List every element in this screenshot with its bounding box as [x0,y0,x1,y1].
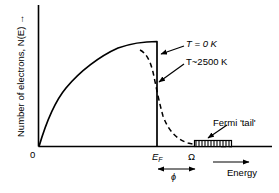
annotation-t-2500: T~2500 K [186,57,227,67]
y-axis-label: Number of electrons, N(E) → [16,6,26,146]
y-axis-label-arrow: → [15,15,26,25]
figure-canvas [0,0,279,193]
annotation-fermi-tail: Fermi 'tail' [213,118,256,128]
fermi-tail-hatch [195,141,232,147]
annotation-t-zero: T = 0 K [186,39,217,49]
fermi-energy-subscript: F [158,156,162,163]
leader-arrow-t-zero [161,46,184,54]
leader-arrow-t-2500 [159,64,184,82]
origin-label: 0 [30,150,35,160]
work-function-label: ϕ [171,173,176,182]
x-axis-label: Energy [227,168,257,178]
y-axis-label-text: Number of electrons, N(E) [15,27,26,137]
fermi-energy-label: EF [152,152,163,163]
curve-t-zero [39,42,157,147]
energy-distribution-figure: Number of electrons, N(E) → 0 T = 0 K T~… [0,0,279,193]
omega-label: Ω [188,152,195,162]
